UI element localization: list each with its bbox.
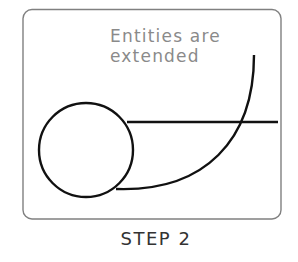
annotation-line-2: extended: [110, 46, 200, 66]
cad-diagram: Entities are extended STEP 2: [0, 0, 298, 262]
annotation-line-1: Entities are: [110, 26, 221, 46]
circle-entity: [39, 103, 133, 197]
step-caption: STEP 2: [121, 228, 192, 249]
